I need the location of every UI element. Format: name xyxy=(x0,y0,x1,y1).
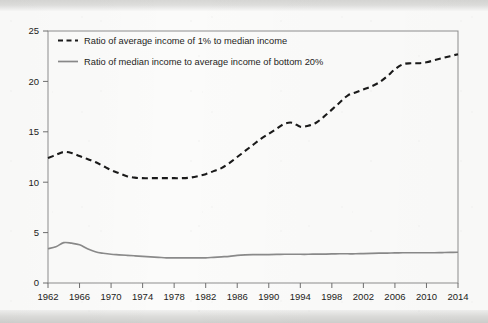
x-tick-label: 1998 xyxy=(321,291,342,302)
x-tick-label: 1986 xyxy=(227,291,248,302)
x-tick-label: 1962 xyxy=(37,291,58,302)
x-axis-tick-labels: 1962196619701974197819821986199019941998… xyxy=(37,291,468,302)
x-tick-label: 1982 xyxy=(195,291,216,302)
x-tick-label: 1994 xyxy=(290,291,311,302)
chart-legend: Ratio of average income of 1% to median … xyxy=(58,36,323,67)
x-axis-ticks xyxy=(48,283,458,288)
series-line-top1pct-ratio xyxy=(48,54,458,178)
x-tick-label: 1978 xyxy=(164,291,185,302)
y-tick-label: 0 xyxy=(34,277,39,288)
x-tick-label: 1966 xyxy=(69,291,90,302)
y-tick-label: 25 xyxy=(28,25,39,36)
chart-page: 0510152025 19621966197019741978198219861… xyxy=(0,0,488,323)
legend-label-1: Ratio of average income of 1% to median … xyxy=(84,36,287,46)
x-tick-label: 2014 xyxy=(447,291,468,302)
y-tick-label: 20 xyxy=(28,76,39,87)
y-tick-label: 5 xyxy=(34,227,39,238)
y-axis-tick-labels: 0510152025 xyxy=(28,25,39,288)
y-axis-ticks xyxy=(43,31,48,283)
x-tick-label: 2002 xyxy=(353,291,374,302)
x-tick-label: 1990 xyxy=(258,291,279,302)
y-tick-label: 10 xyxy=(28,177,39,188)
legend-label-2: Ratio of median income to average income… xyxy=(84,57,323,67)
x-tick-label: 1974 xyxy=(132,291,153,302)
y-tick-label: 15 xyxy=(28,126,39,137)
plot-area-border xyxy=(48,31,458,283)
x-tick-label: 2010 xyxy=(416,291,437,302)
x-tick-label: 2006 xyxy=(384,291,405,302)
line-chart: 0510152025 19621966197019741978198219861… xyxy=(0,0,488,323)
series-line-bottom20pct-ratio xyxy=(48,242,458,257)
x-tick-label: 1970 xyxy=(101,291,122,302)
